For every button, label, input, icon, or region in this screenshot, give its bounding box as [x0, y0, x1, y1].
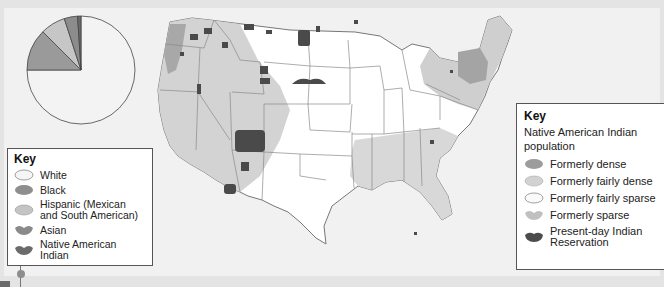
key-item-label: Formerly fairly sparse [550, 193, 656, 204]
asian-swatch-icon [14, 224, 34, 236]
formerly-fairly-dense-swatch-icon [524, 175, 544, 187]
key-item-hispanic: Hispanic (Mexican and South American) [14, 199, 146, 221]
pin-marker-icon [17, 270, 25, 278]
key-item-label: Present-day Indian Reservation [550, 226, 657, 248]
key-title: Key [524, 109, 657, 123]
key-item-label: Black [40, 185, 66, 196]
ethnicity-key: Key White Black Hispanic (Mexican and So… [7, 148, 153, 266]
key-item-label: Native American Indian [40, 239, 146, 261]
native-population-key: Key Native American Indian population Fo… [516, 103, 664, 270]
key-item-formerly-fairly-dense: Formerly fairly dense [524, 175, 657, 187]
formerly-sparse-swatch-icon [524, 209, 544, 221]
key-title: Key [14, 152, 146, 166]
population-pie-chart [0, 0, 140, 140]
key-item-formerly-fairly-sparse: Formerly fairly sparse [524, 192, 657, 204]
white-swatch-icon [14, 169, 34, 181]
formerly-dense-swatch-icon [524, 158, 544, 170]
key-item-reservation: Present-day Indian Reservation [524, 226, 657, 248]
hispanic-swatch-icon [14, 204, 34, 216]
key-item-label: Formerly sparse [550, 210, 629, 221]
corner-marker [0, 281, 10, 287]
black-swatch-icon [14, 184, 34, 196]
key-item-black: Black [14, 184, 146, 196]
key-item-label: White [40, 170, 67, 181]
formerly-fairly-sparse-swatch-icon [524, 192, 544, 204]
key-item-label: Hispanic (Mexican and South American) [40, 199, 146, 221]
reservation-swatch-icon [524, 231, 544, 243]
key-item-label: Asian [40, 225, 66, 236]
key-item-asian: Asian [14, 224, 146, 236]
key-item-native: Native American Indian [14, 239, 146, 261]
key-item-formerly-sparse: Formerly sparse [524, 209, 657, 221]
native-swatch-icon [14, 244, 34, 256]
key-subtitle: Native American Indian population [524, 125, 657, 153]
key-item-formerly-dense: Formerly dense [524, 158, 657, 170]
key-item-white: White [14, 169, 146, 181]
key-item-label: Formerly dense [550, 159, 626, 170]
key-item-label: Formerly fairly dense [550, 176, 653, 187]
us-map [140, 0, 520, 287]
